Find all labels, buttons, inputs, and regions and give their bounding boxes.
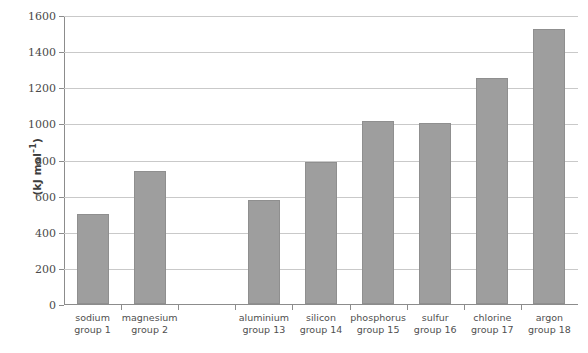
y-axis-tick: [59, 124, 64, 125]
category-element-name: chlorine: [464, 312, 521, 324]
y-axis-tick: [59, 52, 64, 53]
y-axis-tick: [59, 233, 64, 234]
x-axis-category-label: aluminiumgroup 13: [235, 312, 292, 335]
y-axis-tick: [59, 269, 64, 270]
y-axis-tick: [59, 16, 64, 17]
bar-chart: (kJ mol–1) 02004006008001000120014001600…: [0, 0, 588, 353]
y-axis-tick-label: 400: [35, 226, 56, 239]
y-axis-tick-label: 1600: [28, 10, 56, 23]
gridline: [64, 16, 578, 17]
category-group-name: group 15: [350, 324, 407, 336]
y-axis-tick-label: 0: [49, 299, 56, 312]
category-element-name: magnesium: [121, 312, 178, 324]
y-axis-title-superscript: –1: [29, 143, 38, 153]
y-axis-tick-label: 800: [35, 154, 56, 167]
category-element-name: phosphorus: [350, 312, 407, 324]
category-element-name: sulfur: [407, 312, 464, 324]
bar-sulfur: [419, 123, 451, 304]
category-group-name: group 1: [64, 324, 121, 336]
x-axis-category-label: chlorinegroup 17: [464, 312, 521, 335]
gridline: [64, 52, 578, 53]
x-axis-category-label: magnesiumgroup 2: [121, 312, 178, 335]
y-axis-tick: [59, 161, 64, 162]
x-axis-tick: [178, 305, 179, 310]
bar-argon: [533, 29, 565, 304]
category-group-name: group 16: [407, 324, 464, 336]
category-group-name: group 2: [121, 324, 178, 336]
category-group-name: group 13: [235, 324, 292, 336]
x-axis-category-label: silicongroup 14: [292, 312, 349, 335]
y-axis-tick: [59, 305, 64, 306]
category-group-name: group 18: [521, 324, 578, 336]
x-axis-category-label: phosphorusgroup 15: [350, 312, 407, 335]
bar-aluminium: [248, 200, 280, 304]
x-axis-tick: [350, 305, 351, 310]
category-element-name: argon: [521, 312, 578, 324]
y-axis-tick: [59, 197, 64, 198]
x-axis-tick: [292, 305, 293, 310]
plot-area: 02004006008001000120014001600: [64, 16, 578, 305]
x-axis-tick: [521, 305, 522, 310]
x-axis-tick: [235, 305, 236, 310]
y-axis-tick-label: 1200: [28, 82, 56, 95]
category-group-name: group 17: [464, 324, 521, 336]
category-element-name: sodium: [64, 312, 121, 324]
category-group-name: group 14: [292, 324, 349, 336]
bar-sodium: [77, 214, 109, 304]
category-element-name: aluminium: [235, 312, 292, 324]
x-axis-tick: [407, 305, 408, 310]
y-axis-tick-label: 1400: [28, 46, 56, 59]
y-axis-tick: [59, 88, 64, 89]
y-axis-tick-label: 1000: [28, 118, 56, 131]
y-axis-title-tail: ): [31, 138, 43, 143]
bar-silicon: [305, 162, 337, 305]
x-axis-category-label: argongroup 18: [521, 312, 578, 335]
x-axis-category-label: sodiumgroup 1: [64, 312, 121, 335]
category-element-name: silicon: [292, 312, 349, 324]
x-axis-line: [64, 304, 578, 305]
bar-magnesium: [134, 171, 166, 304]
y-axis-tick-label: 600: [35, 190, 56, 203]
bar-phosphorus: [362, 121, 394, 304]
bar-chlorine: [476, 78, 508, 304]
x-axis-tick: [121, 305, 122, 310]
y-axis-tick-label: 200: [35, 262, 56, 275]
x-axis-category-label: sulfurgroup 16: [407, 312, 464, 335]
x-axis-tick: [464, 305, 465, 310]
